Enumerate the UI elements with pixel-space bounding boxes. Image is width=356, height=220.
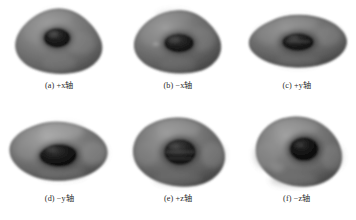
panel-caption-b: (b) −x轴 (163, 82, 192, 90)
specimen-image-c (237, 0, 356, 80)
specimen-image-e (119, 110, 238, 194)
panel-e: (e) +z轴 (119, 110, 238, 220)
specimen-render-f (244, 113, 350, 191)
specimen-image-f (237, 110, 356, 194)
panel-caption-e: (e) +z轴 (164, 195, 192, 203)
panel-caption-a: (a) +x轴 (45, 82, 74, 90)
specimen-image-b (119, 0, 238, 80)
panel-d: (d) −y轴 (0, 110, 119, 220)
panel-f: (f) −z轴 (237, 110, 356, 220)
figure-panel-grid: (a) +x轴 (0, 0, 356, 220)
panel-grid: (a) +x轴 (0, 0, 356, 220)
panel-caption-c: (c) +y轴 (282, 82, 311, 90)
panel-a: (a) +x轴 (0, 0, 119, 110)
specimen-render-c (242, 3, 352, 77)
specimen-render-e (125, 113, 231, 191)
specimen-image-d (0, 110, 119, 194)
panel-c: (c) +y轴 (237, 0, 356, 110)
specimen-render-b (126, 3, 230, 77)
panel-caption-f: (f) −z轴 (283, 195, 310, 203)
specimen-render-a (7, 3, 111, 77)
panel-caption-d: (d) −y轴 (45, 195, 74, 203)
panel-b: (b) −x轴 (119, 0, 238, 110)
specimen-image-a (0, 0, 119, 80)
specimen-render-d (4, 113, 114, 191)
